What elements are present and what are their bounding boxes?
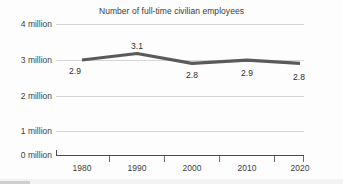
data-label-2010: 2.9 <box>241 68 253 78</box>
x-tick-label-2010: 2010 <box>238 163 257 173</box>
x-tick-mark-end <box>303 156 304 162</box>
x-axis-line <box>56 155 304 156</box>
gridline-1-million <box>56 131 304 132</box>
gridline-3-million <box>56 60 304 61</box>
y-tick-label-1-million: 1 million <box>0 126 52 136</box>
y-tick-label-0-million: 0 million <box>0 150 52 160</box>
data-label-2020: 2.8 <box>293 72 305 82</box>
y-tick-label-2-million: 2 million <box>0 91 52 101</box>
x-tick-label-1980: 1980 <box>73 163 92 173</box>
data-label-2000: 2.8 <box>186 70 198 80</box>
x-tick-label-2000: 2000 <box>183 163 202 173</box>
gridline-2-million <box>56 96 304 97</box>
x-tick-mark-3 <box>219 156 220 162</box>
x-tick-mark-1 <box>109 156 110 162</box>
y-axis-cap <box>56 150 57 156</box>
bottom-edge-marker <box>0 181 30 184</box>
x-tick-mark-4 <box>274 156 275 162</box>
data-label-1990: 3.1 <box>131 41 143 51</box>
chart-title: Number of full-time civilian employees <box>0 6 343 16</box>
y-tick-label-3-million: 3 million <box>0 55 52 65</box>
x-tick-label-2020: 2020 <box>291 163 310 173</box>
x-tick-label-1990: 1990 <box>128 163 147 173</box>
data-label-1980: 2.9 <box>69 66 81 76</box>
chart-container: Number of full-time civilian employees 4… <box>0 0 343 184</box>
y-tick-label-4-million: 4 million <box>0 19 52 29</box>
gridline-4-million <box>56 24 304 25</box>
bottom-edge-strip <box>0 179 343 184</box>
x-tick-mark-2 <box>164 156 165 162</box>
